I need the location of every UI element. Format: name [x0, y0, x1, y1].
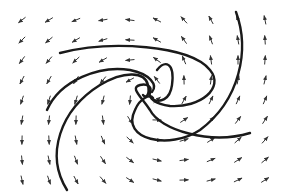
field-arrow-icon	[101, 136, 105, 144]
field-arrow-icon	[126, 157, 133, 162]
field-arrow-icon	[262, 157, 269, 163]
field-arrow-icon	[130, 96, 131, 105]
field-arrow-icon	[209, 16, 213, 24]
field-arrow-icon	[46, 37, 53, 43]
field-arrow-icon	[21, 176, 23, 185]
field-arrow-icon	[45, 18, 53, 23]
field-arrow-icon	[153, 18, 161, 22]
field-arrow-icon	[21, 96, 24, 105]
field-arrow-icon	[153, 159, 162, 161]
field-arrow-icon	[126, 60, 135, 61]
field-arrow-icon	[102, 116, 103, 125]
trajectory-curve	[152, 64, 173, 100]
field-arrow-icon	[47, 76, 51, 84]
field-arrow-icon	[102, 96, 104, 105]
field-arrow-icon	[20, 76, 24, 84]
field-arrow-icon	[99, 19, 108, 21]
trajectory-curve	[132, 12, 242, 140]
field-arrow-icon	[126, 178, 134, 183]
field-arrow-icon	[235, 137, 242, 143]
field-arrow-icon	[209, 36, 212, 44]
field-arrow-icon	[234, 158, 242, 163]
field-arrow-icon	[180, 117, 187, 122]
field-arrow-icon	[74, 176, 78, 184]
field-arrow-icon	[263, 116, 268, 124]
field-arrow-icon	[234, 178, 242, 182]
field-arrow-icon	[153, 179, 162, 181]
field-arrow-icon	[181, 17, 187, 24]
field-arrow-icon	[154, 76, 160, 83]
field-arrow-icon	[181, 36, 186, 43]
field-arrow-icon	[237, 36, 239, 45]
field-arrow-icon	[75, 136, 77, 145]
field-arrow-icon	[48, 116, 49, 125]
field-arrow-icon	[48, 156, 50, 165]
field-arrow-icon	[209, 96, 213, 104]
field-arrow-icon	[100, 177, 106, 184]
field-arrow-icon	[210, 56, 211, 65]
field-arrow-icon	[72, 18, 80, 21]
field-arrow-icon	[153, 38, 161, 43]
field-arrow-icon	[236, 96, 240, 104]
field-arrow-icon	[18, 17, 25, 23]
field-arrow-icon	[99, 39, 108, 42]
field-arrow-icon	[99, 58, 107, 63]
field-arrow-icon	[19, 56, 24, 63]
field-arrow-icon	[262, 137, 268, 144]
field-arrow-icon	[180, 159, 189, 160]
field-arrow-icon	[207, 179, 216, 181]
field-arrow-icon	[100, 156, 105, 163]
field-arrow-icon	[182, 96, 186, 104]
trajectory-curve	[57, 74, 149, 190]
field-arrow-icon	[263, 96, 267, 104]
field-arrow-icon	[265, 36, 266, 45]
field-arrow-icon	[46, 57, 52, 64]
field-arrow-icon	[127, 137, 134, 143]
field-arrow-icon	[235, 116, 240, 123]
field-arrow-icon	[49, 136, 50, 145]
field-arrow-icon	[210, 76, 211, 85]
field-arrow-icon	[264, 16, 266, 25]
field-arrow-icon	[72, 38, 80, 43]
field-arrow-icon	[74, 156, 77, 164]
phase-portrait-svg	[0, 0, 293, 192]
field-arrow-icon	[126, 78, 134, 82]
field-arrow-icon	[126, 19, 135, 20]
field-arrow-icon	[207, 158, 215, 161]
field-arrow-icon	[48, 176, 51, 184]
field-arrow-icon	[22, 156, 23, 165]
field-arrow-icon	[261, 178, 269, 183]
vector-field-diagram	[0, 0, 293, 192]
field-arrow-icon	[182, 56, 186, 64]
field-arrow-icon	[73, 57, 80, 63]
field-arrow-icon	[21, 116, 23, 125]
field-arrow-icon	[153, 57, 160, 62]
field-arrow-icon	[264, 76, 266, 85]
field-arrow-icon	[19, 37, 25, 43]
field-arrow-icon	[265, 56, 266, 65]
